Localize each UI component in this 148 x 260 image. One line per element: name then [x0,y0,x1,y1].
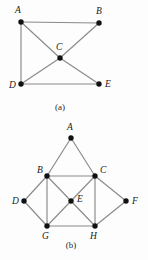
vertex-graph-b-H [92,223,97,228]
vertex-graph-b-F [123,198,128,203]
caption-graph-b: (b) [66,240,77,250]
vertex-graph-a-E [96,81,101,86]
graph-figure-svg: ABCDEABCDEFGH (a)(b) [0,0,148,260]
vertex-graph-a-A [18,19,23,24]
vertex-graph-a-B [96,20,101,25]
vertex-label-graph-b-F: F [131,196,138,206]
edge-graph-a-C-E [60,58,99,84]
vertex-label-graph-a-E: E [104,79,111,89]
vertex-label-graph-b-G: G [42,231,49,241]
edge-graph-b-A-C [71,138,95,176]
vertex-label-graph-b-B: B [37,165,43,175]
edge-graph-a-B-C [60,23,99,58]
edge-graph-b-C-E [71,176,95,201]
vertices-layer [18,19,128,228]
edge-graph-a-A-C [21,22,60,58]
edge-graph-b-E-H [71,201,95,226]
edge-graph-b-B-D [24,176,47,201]
vertex-label-graph-a-A: A [14,5,21,15]
edge-graph-b-C-F [95,176,126,201]
vertex-label-graph-a-B: B [96,6,102,16]
vertex-graph-a-D [18,81,23,86]
edge-graph-b-F-H [95,201,126,226]
vertex-graph-b-A [68,135,73,140]
edge-graph-b-D-G [24,201,47,226]
vertex-label-graph-b-A: A [66,122,73,132]
edge-graph-b-B-E [47,176,71,201]
vertex-graph-b-D [21,198,26,203]
vertex-label-graph-b-H: H [89,231,98,241]
vertex-label-graph-b-D: D [11,196,19,206]
edge-graph-b-E-G [47,201,71,226]
vertex-label-graph-b-E: E [76,194,83,204]
edges-layer [21,22,126,226]
edge-graph-a-C-D [21,58,60,84]
edge-graph-b-A-B [47,138,71,176]
caption-graph-a: (a) [55,102,65,112]
vertex-graph-b-E [68,198,73,203]
vertex-graph-b-G [44,223,49,228]
edge-graph-a-A-B [21,22,99,23]
vertex-label-graph-a-C: C [56,42,63,52]
vertex-label-graph-b-C: C [100,165,107,175]
vertex-graph-b-C [92,173,97,178]
vertex-graph-a-C [57,55,62,60]
figure-container: ABCDEABCDEFGH (a)(b) [0,0,148,260]
vertex-graph-b-B [44,173,49,178]
vertex-label-graph-a-D: D [8,80,16,90]
